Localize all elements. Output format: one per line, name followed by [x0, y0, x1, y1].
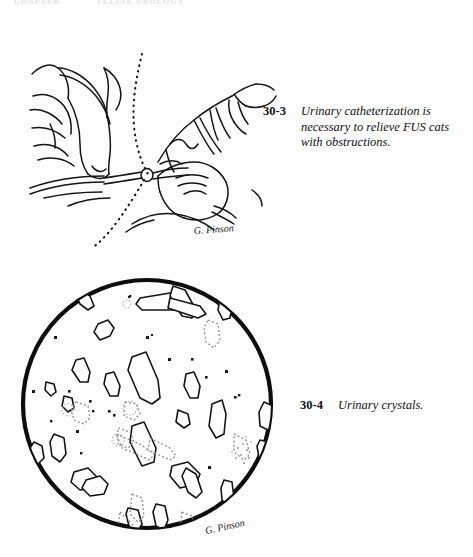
figure-30-4-caption: 30-4 Urinary crystals.: [300, 398, 470, 414]
running-head-right: FELINE UROLOGY: [97, 0, 184, 6]
urinary-crystals-microscope-field: G. Pinson: [10, 262, 290, 550]
catheterization-drawing: G. Pinson: [8, 28, 284, 250]
figure-30-3-illustration: G. Pinson: [8, 28, 284, 250]
textbook-page: CHAPTER FELINE UROLOGY: [0, 0, 473, 557]
figure-30-4-number: 30-4: [300, 398, 338, 414]
figure-30-3-caption: 30-3 Urinary catheterization is necessar…: [263, 104, 469, 151]
running-head: CHAPTER FELINE UROLOGY: [14, 0, 184, 6]
figure-30-3-caption-text: Urinary catheterization is necessary to …: [301, 104, 453, 151]
running-head-left: CHAPTER: [14, 0, 60, 6]
figure-30-4-caption-text: Urinary crystals.: [338, 398, 423, 414]
figure-30-4-illustration: G. Pinson: [10, 262, 290, 550]
figure-30-3-number: 30-3: [263, 104, 301, 120]
artist-signature: G. Pinson: [193, 222, 234, 236]
artist-signature: G. Pinson: [204, 517, 245, 536]
